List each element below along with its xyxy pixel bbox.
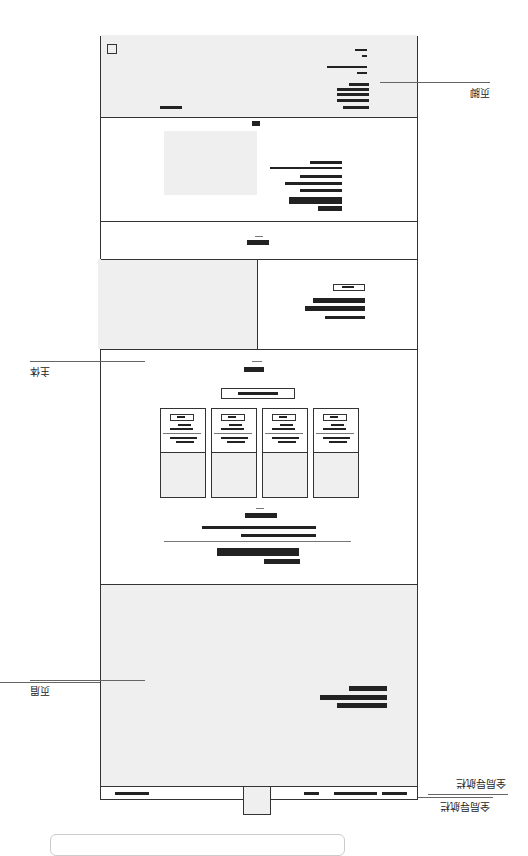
leader-global-nav xyxy=(428,794,508,795)
hero-heading xyxy=(337,703,387,708)
card-line xyxy=(176,441,194,443)
card-line xyxy=(272,428,295,430)
card-line xyxy=(323,428,346,430)
card-divider xyxy=(214,433,252,434)
card-line xyxy=(329,441,347,443)
media-label xyxy=(252,121,260,126)
card-button[interactable] xyxy=(170,414,194,421)
label-header: 页眉 xyxy=(30,684,50,699)
leader-header xyxy=(30,680,145,681)
card-button-label xyxy=(228,416,236,418)
strip-title xyxy=(247,240,269,245)
card-button-label xyxy=(330,416,338,418)
pricing-card[interactable] xyxy=(262,408,308,498)
media-image xyxy=(164,131,257,195)
pricing-card[interactable] xyxy=(313,408,359,498)
footer-link[interactable] xyxy=(362,55,367,57)
footer-logo-placeholder[interactable] xyxy=(107,44,117,54)
pricing-title xyxy=(245,513,277,518)
divider xyxy=(164,541,351,542)
cta-heading xyxy=(217,548,299,556)
body-title-strip xyxy=(101,222,417,260)
feature-text xyxy=(325,316,365,319)
feature-text xyxy=(313,298,365,303)
media-button[interactable] xyxy=(318,206,342,211)
footer-link[interactable] xyxy=(357,72,367,74)
feature-tag[interactable] xyxy=(333,284,365,291)
header-hero xyxy=(101,585,417,787)
footer-link[interactable] xyxy=(337,93,369,96)
feature-image xyxy=(98,259,258,349)
card-line xyxy=(278,441,296,443)
card-line xyxy=(227,441,245,443)
body-pricing xyxy=(101,350,417,585)
card-image xyxy=(161,452,205,497)
media-text xyxy=(300,175,342,178)
media-text xyxy=(270,167,342,169)
footer xyxy=(101,35,417,118)
pricing-cards xyxy=(159,408,359,498)
card-image xyxy=(314,452,358,497)
label-global-nav: 全局导航栏 xyxy=(440,800,490,815)
footer-link[interactable] xyxy=(355,49,367,51)
card-divider xyxy=(163,433,201,434)
nav-logo-placeholder[interactable] xyxy=(243,785,271,815)
card-divider xyxy=(316,433,354,434)
section-title-rule xyxy=(252,361,262,362)
nav-item[interactable] xyxy=(382,792,407,795)
card-button[interactable] xyxy=(323,414,347,421)
nav-item[interactable] xyxy=(304,792,319,795)
global-nav xyxy=(101,787,417,799)
pricing-title-rule xyxy=(256,508,264,509)
footer-link[interactable] xyxy=(349,83,369,86)
card-line xyxy=(280,424,293,426)
card-line xyxy=(229,424,242,426)
card-image xyxy=(263,452,307,497)
card-line xyxy=(178,424,191,426)
hero-heading xyxy=(320,695,387,700)
card-image xyxy=(212,452,256,497)
feature-text xyxy=(305,306,365,311)
card-button-label xyxy=(177,416,185,418)
media-button[interactable] xyxy=(289,197,342,204)
label-body: 主体 xyxy=(30,365,50,380)
label-global-nav: 全局导航栏 xyxy=(456,777,506,792)
nav-item[interactable] xyxy=(115,792,149,795)
footer-link[interactable] xyxy=(337,99,369,102)
cta-button-label[interactable] xyxy=(264,559,300,564)
card-line xyxy=(323,437,350,439)
footer-link[interactable] xyxy=(343,106,369,109)
section-title xyxy=(244,367,264,372)
media-text xyxy=(310,161,342,164)
card-button[interactable] xyxy=(221,414,245,421)
footer-link[interactable] xyxy=(327,66,367,68)
card-line xyxy=(221,437,248,439)
media-text xyxy=(300,189,342,192)
footer-link[interactable] xyxy=(337,88,369,91)
card-divider xyxy=(265,433,303,434)
pricing-subtitle xyxy=(241,534,316,537)
pricing-subtitle xyxy=(202,526,316,529)
body-feature-split xyxy=(101,260,417,350)
card-line xyxy=(221,428,244,430)
card-line xyxy=(331,424,344,426)
pricing-card[interactable] xyxy=(211,408,257,498)
leader-global-nav xyxy=(418,797,493,798)
section-button[interactable] xyxy=(221,388,295,399)
page-frame xyxy=(100,36,418,800)
card-line xyxy=(170,437,197,439)
media-text xyxy=(285,182,342,185)
nav-item[interactable] xyxy=(334,792,377,795)
card-line xyxy=(272,437,299,439)
feature-tag-label xyxy=(342,286,354,288)
pricing-card[interactable] xyxy=(160,408,206,498)
card-button-label xyxy=(279,416,287,418)
strip-title-rule xyxy=(255,236,263,237)
card-line xyxy=(170,428,193,430)
footer-link[interactable] xyxy=(160,106,182,109)
card-button[interactable] xyxy=(272,414,296,421)
label-footer: 页脚 xyxy=(470,86,490,101)
hero-subheading xyxy=(349,686,387,691)
bottom-panel xyxy=(50,834,345,856)
